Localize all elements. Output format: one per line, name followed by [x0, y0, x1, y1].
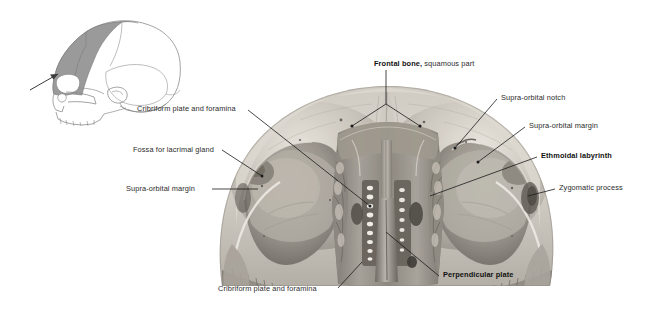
anatomy-figure: Frontal bone, squamous part Cribriform p…	[0, 0, 663, 311]
label-cribriform-plate-upper: Cribriform plate and foramina	[137, 105, 236, 112]
label-cribriform-plate-lower: Cribriform plate and foramina	[218, 285, 317, 292]
label-fossa-lacrimal-gland: Fossa for lacrimal gland	[133, 146, 214, 153]
label-frontal-bone: Frontal bone, squamous part	[374, 60, 474, 67]
label-frontal-bone-bold: Frontal bone,	[374, 59, 422, 68]
label-frontal-bone-regular: squamous part	[422, 59, 474, 68]
label-supra-orbital-margin-left: Supra-orbital margin	[126, 185, 195, 192]
label-ethmoidal-labyrinth: Ethmoidal labyrinth	[541, 152, 612, 159]
label-supra-orbital-notch: Supra-orbital notch	[501, 94, 565, 101]
label-perpendicular-plate: Perpendicular plate	[443, 271, 514, 278]
label-zygomatic-process: Zygomatic process	[559, 184, 623, 191]
label-supra-orbital-margin-right: Supra-orbital margin	[529, 122, 598, 129]
